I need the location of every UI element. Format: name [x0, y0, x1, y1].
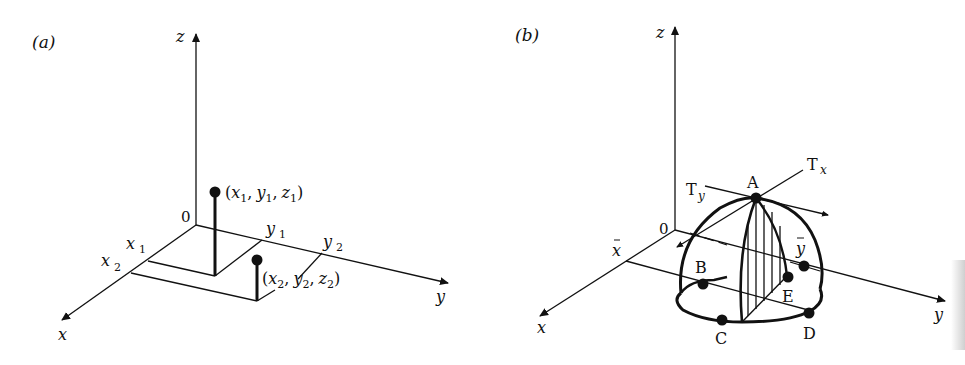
panel-a-label: (a) — [32, 32, 55, 52]
x-axis-label: x — [537, 318, 546, 337]
point-1-label: (x1,y1,z1) — [225, 183, 303, 205]
x-axis-label: x — [58, 325, 67, 344]
y-axis — [675, 230, 945, 301]
ybar-label: y — [795, 238, 806, 258]
svg-text:T: T — [807, 155, 818, 174]
panel-b: (b) — [515, 23, 945, 348]
tx-label: T x — [807, 155, 827, 177]
svg-text:x: x — [126, 234, 135, 253]
y-axis-label: y — [435, 287, 446, 306]
svg-text:2: 2 — [114, 261, 121, 274]
panel-b-label: (b) — [515, 25, 539, 45]
point-a-marker — [751, 193, 762, 204]
origin-label: 0 — [659, 220, 669, 238]
xbar-label: x — [612, 240, 621, 260]
point-e-marker — [783, 272, 794, 283]
x-axis — [540, 230, 675, 316]
panel-b-axes — [540, 27, 945, 316]
svg-text:y: y — [795, 239, 806, 258]
point-b-marker — [698, 279, 709, 290]
z-axis-label: z — [655, 23, 665, 42]
point-2-marker — [252, 255, 263, 266]
point-c-marker — [717, 315, 728, 326]
point-d-marker — [804, 308, 815, 319]
point-c-label: C — [715, 329, 727, 348]
origin-label: 0 — [181, 208, 191, 226]
tick-y2: y 2 — [322, 232, 343, 254]
tick-x1: x 1 — [126, 234, 146, 256]
panel-a-axes — [62, 34, 448, 320]
centroid-marker — [799, 261, 810, 272]
point-d-label: D — [803, 324, 816, 343]
point-b-label: B — [695, 258, 707, 277]
point-2-label: (x2,y2,z2) — [262, 269, 340, 291]
point-a-label: A — [746, 173, 759, 192]
tick-x2: x 2 — [101, 251, 121, 274]
svg-text:2: 2 — [336, 241, 343, 254]
svg-text:x: x — [820, 163, 827, 177]
svg-text:T: T — [686, 180, 697, 199]
svg-text:y: y — [265, 219, 276, 238]
figure-root: (a) z y x 0 x 1 x 2 — [0, 0, 965, 365]
tick-y1: y 1 — [265, 219, 286, 241]
panel-a-stems — [215, 192, 257, 301]
svg-text:y: y — [697, 189, 705, 203]
y-axis-label: y — [933, 305, 944, 324]
ty-label: T y — [686, 180, 705, 203]
svg-text:x: x — [101, 251, 110, 270]
svg-text:x: x — [612, 241, 621, 260]
point-e-label: E — [782, 287, 794, 306]
svg-text:1: 1 — [139, 243, 146, 256]
point-1-marker — [210, 187, 221, 198]
panel-a: (a) z y x 0 x 1 x 2 — [32, 27, 448, 344]
svg-text:y: y — [322, 232, 333, 251]
z-axis-label: z — [175, 27, 185, 46]
page-edge-shadow — [951, 260, 965, 350]
svg-text:1: 1 — [279, 228, 286, 241]
